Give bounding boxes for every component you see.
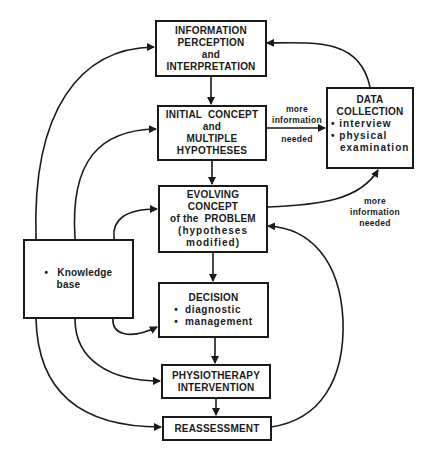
arrow-data-to-info <box>267 43 370 87</box>
arrow-reassess-to-evolving <box>268 226 343 427</box>
label-text: information <box>335 207 415 218</box>
bullet-diagnostic: • diagnostic <box>174 304 253 316</box>
bullet-management: • management <box>174 316 253 328</box>
node-data-collection: DATA COLLECTION • interview • physical e… <box>326 87 414 169</box>
node-text: examination <box>331 142 409 154</box>
node-text: MULTIPLE <box>187 133 238 145</box>
node-text: INITIAL CONCEPT <box>166 109 258 121</box>
arrow-kb-info <box>36 47 154 238</box>
node-evolving-concept: EVOLVING CONCEPT of the PROBLEM (hypothe… <box>158 185 268 253</box>
node-text: PHYSIOTHERAPY <box>172 370 260 382</box>
node-text: physical <box>339 130 387 141</box>
bullet-interview: • interview <box>331 118 409 130</box>
arrow-kb-initial <box>74 129 156 238</box>
node-text: CONCEPT <box>188 201 238 213</box>
label-text: more <box>335 196 415 207</box>
node-text: HYPOTHESES <box>177 145 247 157</box>
node-text: DATA <box>356 94 383 106</box>
node-text: INTERPRETATION <box>166 61 255 73</box>
bullet-knowledge: • Knowledge <box>45 267 113 279</box>
node-text: COLLECTION <box>337 106 404 118</box>
node-text: diagnostic <box>185 304 241 315</box>
arrow-kb-decision <box>113 319 157 334</box>
bullet-physical: • physical <box>331 130 409 142</box>
label-text: needed <box>335 218 415 229</box>
node-text: EVOLVING <box>187 189 240 201</box>
node-text: modified) <box>186 237 240 249</box>
node-text: base <box>45 279 113 291</box>
node-text: (hypotheses <box>178 225 248 237</box>
node-knowledge-base: • Knowledge base <box>23 239 134 319</box>
node-text: Knowledge <box>57 267 112 278</box>
edge-label-evolving-data: more information needed <box>335 196 415 229</box>
node-initial-concept: INITIAL CONCEPT and MULTIPLE HYPOTHESES <box>157 105 267 161</box>
label-text: more <box>268 104 326 115</box>
node-text: INTERVENTION <box>178 382 255 394</box>
node-text: and <box>202 49 220 61</box>
edge-label-initial-data: more information needed <box>268 104 326 145</box>
arrow-kb-evolving <box>114 209 157 238</box>
node-text: PERCEPTION <box>177 37 244 49</box>
node-text: REASSESSMENT <box>174 423 259 435</box>
node-text: INFORMATION <box>175 25 247 37</box>
arrow-kb-physio <box>75 319 160 381</box>
node-text: management <box>185 316 253 327</box>
node-text: and <box>203 121 221 133</box>
node-text: interview <box>339 118 391 129</box>
node-text: of the PROBLEM <box>170 213 256 225</box>
node-physiotherapy-intervention: PHYSIOTHERAPY INTERVENTION <box>161 364 271 399</box>
node-text: DECISION <box>189 292 239 304</box>
node-information-perception: INFORMATION PERCEPTION and INTERPRETATIO… <box>155 20 267 77</box>
label-text: information <box>268 115 326 126</box>
arrow-kb-reassess <box>36 319 161 427</box>
node-decision: DECISION • diagnostic • management <box>158 282 269 338</box>
node-reassessment: REASSESSMENT <box>162 416 272 441</box>
label-text: needed <box>268 134 326 145</box>
